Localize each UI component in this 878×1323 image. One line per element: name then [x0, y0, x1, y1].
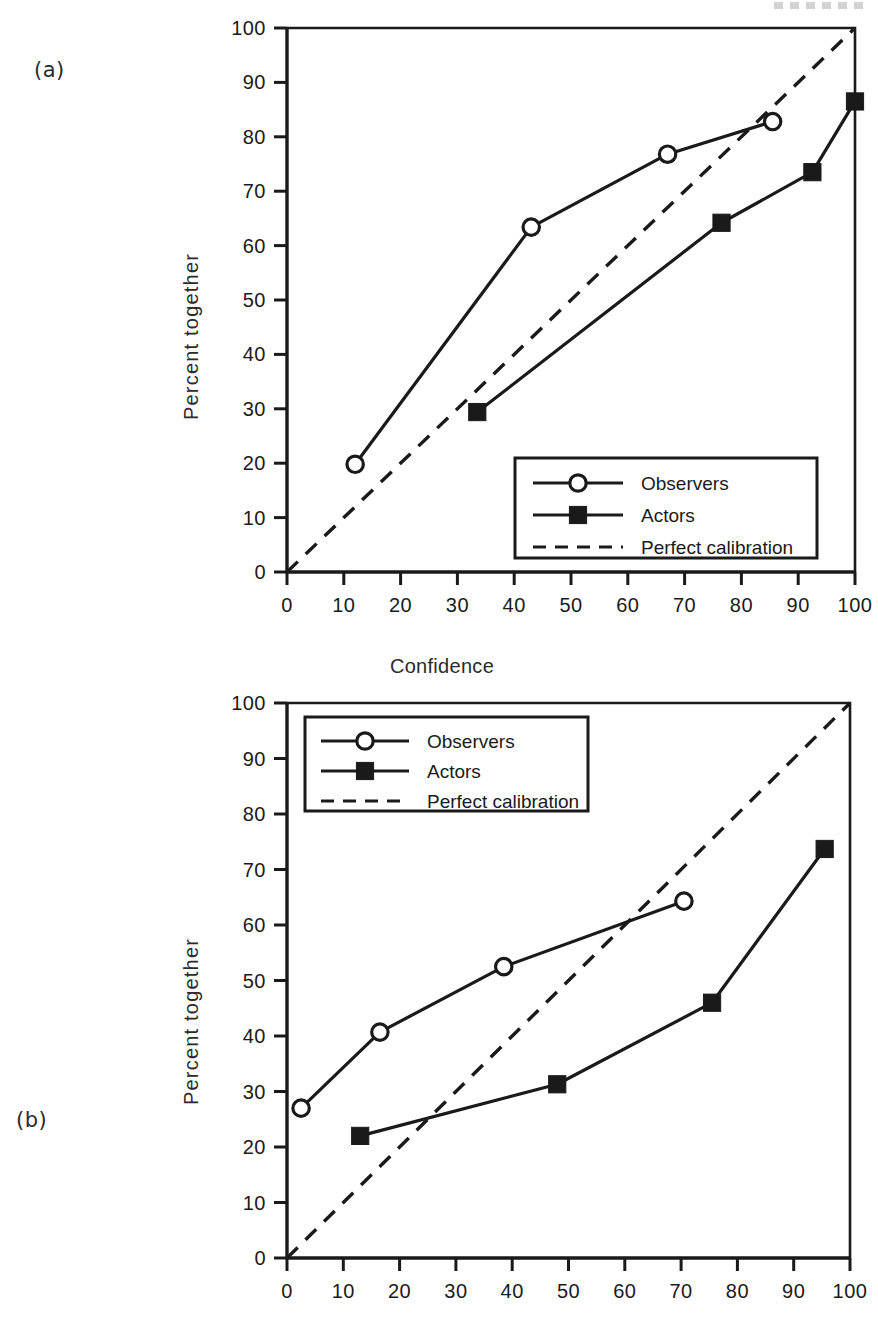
y-tick-label: 100	[231, 692, 266, 714]
x-tick-label: 60	[613, 1280, 636, 1302]
y-tick-label: 50	[243, 289, 266, 311]
y-axis-ticks-a: 0102030405060708090100	[231, 17, 287, 583]
data-point-open-circle	[659, 146, 675, 162]
y-tick-label: 40	[243, 343, 266, 365]
x-tick-label: 30	[446, 594, 469, 616]
data-point-open-circle	[496, 958, 512, 974]
x-tick-label: 70	[669, 1280, 692, 1302]
y-tick-label: 10	[243, 507, 266, 529]
x-tick-label: 60	[616, 594, 639, 616]
plot-area-a: 0102030405060708090100010203040506070809…	[231, 17, 872, 616]
x-tick-label: 70	[673, 594, 696, 616]
legend-item-label: Observers	[641, 473, 729, 494]
y-tick-label: 20	[243, 452, 266, 474]
x-tick-label: 30	[444, 1280, 467, 1302]
chart-panel-b: 0102030405060708090100010203040506070809…	[0, 675, 878, 1323]
series-observers	[347, 113, 781, 472]
data-point-open-circle	[347, 456, 363, 472]
legend-item-label: Observers	[427, 731, 515, 752]
x-tick-label: 100	[833, 1280, 868, 1302]
y-tick-label: 90	[243, 71, 266, 93]
legend-a: ObserversActorsPerfect calibration	[515, 458, 817, 558]
data-point-filled-square	[356, 762, 373, 779]
data-point-filled-square	[703, 994, 720, 1011]
legend-item-label: Perfect calibration	[427, 791, 579, 812]
legend-item-label: Perfect calibration	[641, 537, 793, 558]
series-line	[355, 122, 772, 465]
data-point-filled-square	[816, 840, 833, 857]
data-point-open-circle	[293, 1100, 309, 1116]
y-tick-label: 90	[243, 748, 266, 770]
y-tick-label: 70	[243, 180, 266, 202]
legend-item-label: Actors	[641, 505, 695, 526]
data-point-filled-square	[846, 93, 863, 110]
y-tick-label: 50	[243, 970, 266, 992]
x-tick-label: 80	[730, 594, 753, 616]
y-tick-label: 60	[243, 235, 266, 257]
y-tick-label: 30	[243, 398, 266, 420]
y-tick-label: 80	[243, 126, 266, 148]
y-tick-label: 0	[254, 561, 266, 583]
x-tick-label: 20	[388, 1280, 411, 1302]
series-line	[360, 849, 824, 1136]
chart-panel-a: 0102030405060708090100010203040506070809…	[0, 0, 878, 640]
x-tick-label: 0	[281, 1280, 293, 1302]
data-point-filled-square	[549, 1076, 566, 1093]
legend-item-label: Actors	[427, 761, 481, 782]
series-line	[301, 901, 684, 1108]
x-tick-label: 40	[503, 594, 526, 616]
data-point-filled-square	[352, 1127, 369, 1144]
y-tick-label: 0	[254, 1247, 266, 1269]
figure-calibration-curves: (a) Percent together 0102030405060708090…	[0, 0, 878, 1323]
data-point-open-circle	[570, 475, 586, 491]
x-tick-label: 10	[332, 594, 355, 616]
y-tick-label: 80	[243, 803, 266, 825]
y-axis-ticks-b: 0102030405060708090100	[231, 692, 287, 1269]
y-tick-label: 20	[243, 1136, 266, 1158]
x-axis-title-text: Confidence	[390, 655, 494, 677]
series-observers	[293, 893, 692, 1116]
data-point-filled-square	[569, 506, 586, 523]
data-point-open-circle	[523, 219, 539, 235]
x-axis-ticks-a: 0102030405060708090100	[281, 572, 872, 616]
data-point-open-circle	[676, 893, 692, 909]
x-tick-label: 100	[838, 594, 873, 616]
series-actors	[469, 93, 864, 421]
x-tick-label: 20	[389, 594, 412, 616]
x-tick-label: 0	[281, 594, 293, 616]
data-point-open-circle	[357, 733, 373, 749]
data-point-filled-square	[469, 403, 486, 420]
y-tick-label: 10	[243, 1192, 266, 1214]
data-point-open-circle	[372, 1024, 388, 1040]
x-tick-label: 50	[559, 594, 582, 616]
x-tick-label: 50	[557, 1280, 580, 1302]
x-tick-label: 10	[332, 1280, 355, 1302]
data-point-open-circle	[764, 113, 780, 129]
legend-b: ObserversActorsPerfect calibration	[305, 717, 588, 812]
x-axis-ticks-b: 0102030405060708090100	[281, 1258, 867, 1302]
y-tick-label: 60	[243, 914, 266, 936]
series-actors	[352, 840, 834, 1144]
y-tick-label: 100	[231, 17, 266, 39]
data-point-filled-square	[713, 214, 730, 231]
y-tick-label: 40	[243, 1025, 266, 1047]
x-tick-label: 40	[501, 1280, 524, 1302]
y-tick-label: 70	[243, 859, 266, 881]
x-tick-label: 80	[726, 1280, 749, 1302]
y-tick-label: 30	[243, 1081, 266, 1103]
x-tick-label: 90	[782, 1280, 805, 1302]
data-point-filled-square	[804, 164, 821, 181]
x-tick-label: 90	[787, 594, 810, 616]
plot-area-b: 0102030405060708090100010203040506070809…	[231, 692, 867, 1302]
